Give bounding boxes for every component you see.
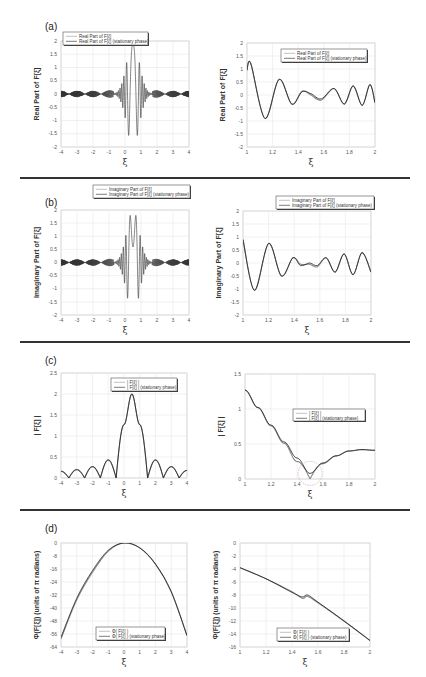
y-axis-label: Real Part of F[ξ] bbox=[219, 69, 227, 122]
y-tick-label: -2 bbox=[235, 312, 240, 318]
x-axis-label: ξ bbox=[303, 657, 308, 667]
x-tick-label: 1 bbox=[140, 149, 143, 155]
y-tick-label: 0 bbox=[54, 540, 57, 546]
y-tick-label: -14 bbox=[229, 631, 236, 637]
y-tick-label: -16 bbox=[50, 566, 57, 572]
figure-canvas: -4-3-2-10123421.510.50-0.5-1-1.5-2ξReal … bbox=[0, 0, 426, 677]
x-tick-label: 1.4 bbox=[294, 481, 301, 487]
x-tick-label: 2 bbox=[154, 480, 157, 486]
x-tick-label: 4 bbox=[186, 480, 189, 486]
y-tick-label: 0 bbox=[236, 260, 239, 266]
y-tick-label: 1 bbox=[238, 406, 241, 412]
y-tick-label: -1.5 bbox=[230, 299, 239, 305]
y-axis-label: | F[ξ] | bbox=[33, 416, 41, 436]
y-tick-label: -8 bbox=[53, 553, 58, 559]
x-tick-label: 1.2 bbox=[265, 317, 272, 323]
x-tick-label: -1 bbox=[106, 480, 111, 486]
x-tick-label: 1.8 bbox=[341, 649, 348, 655]
x-axis-label: ξ bbox=[305, 325, 310, 335]
x-tick-label: 1 bbox=[244, 481, 247, 487]
chart-b-right: 11.21.41.61.8221.510.50-0.5-1-1.5-2ξImag… bbox=[215, 196, 375, 335]
x-tick-label: 1.8 bbox=[346, 149, 353, 155]
x-tick-label: 1 bbox=[138, 649, 141, 655]
x-tick-label: 1 bbox=[138, 480, 141, 486]
legend: Imaginary Part of F[ξ]Imaginary Part of … bbox=[276, 196, 375, 210]
x-tick-label: 2 bbox=[374, 149, 377, 155]
x-tick-label: -3 bbox=[75, 149, 80, 155]
y-tick-label: 1 bbox=[54, 433, 57, 439]
y-tick-label: -2 bbox=[239, 144, 244, 150]
x-tick-label: 2 bbox=[156, 149, 159, 155]
x-tick-label: 1.6 bbox=[320, 149, 327, 155]
x-tick-label: 1 bbox=[246, 149, 249, 155]
x-tick-label: 1.6 bbox=[315, 649, 322, 655]
chart-d-left: -4-3-2-1012340-8-16-24-32-40-48-56-64ξΦ(… bbox=[33, 540, 189, 667]
y-tick-label: 0.5 bbox=[50, 454, 57, 460]
y-tick-label: -0.5 bbox=[48, 272, 57, 278]
x-axis-label: ξ bbox=[309, 157, 314, 167]
y-tick-label: 1.5 bbox=[234, 371, 241, 377]
y-tick-label: 1 bbox=[236, 234, 239, 240]
y-tick-label: 2 bbox=[54, 38, 57, 44]
y-tick-label: 2 bbox=[54, 207, 57, 213]
legend: | F[ξ] || F[ξ] | (stationary phase) bbox=[111, 378, 178, 392]
x-tick-label: 2 bbox=[370, 317, 373, 323]
x-tick-label: 1 bbox=[242, 317, 245, 323]
y-tick-label: 0 bbox=[54, 475, 57, 481]
y-tick-label: 0 bbox=[238, 476, 241, 482]
y-tick-label: -1.5 bbox=[234, 131, 243, 137]
y-tick-label: 0.5 bbox=[232, 247, 239, 253]
x-tick-label: 4 bbox=[188, 149, 191, 155]
y-tick-label: 0 bbox=[54, 91, 57, 97]
y-tick-label: 2.5 bbox=[50, 370, 57, 376]
legend: Real Part of F[ξ]Real Part of F[ξ] (stat… bbox=[63, 32, 149, 46]
x-tick-label: 2 bbox=[369, 649, 372, 655]
x-tick-label: -4 bbox=[59, 149, 64, 155]
y-tick-label: -32 bbox=[50, 592, 57, 598]
legend-entry: Real Part of F[ξ] (stationary phase) bbox=[79, 39, 149, 44]
y-axis-label: Imaginary Part of F[ξ] bbox=[33, 227, 41, 298]
y-tick-label: 1 bbox=[54, 64, 57, 70]
y-tick-label: -0.5 bbox=[48, 104, 57, 110]
x-tick-label: 1.6 bbox=[316, 317, 323, 323]
x-tick-label: -1 bbox=[107, 149, 112, 155]
x-tick-label: 1.2 bbox=[269, 149, 276, 155]
y-axis-label: Φ(F[ξ]) (units of π radians) bbox=[212, 551, 220, 640]
legend: Imaginary Part of F[ξ]Imaginary Part of … bbox=[93, 185, 191, 199]
y-tick-label: -8 bbox=[232, 592, 237, 598]
x-axis-label: ξ bbox=[308, 489, 313, 499]
x-tick-label: 4 bbox=[188, 317, 191, 323]
x-tick-label: 3 bbox=[170, 480, 173, 486]
y-tick-label: -12 bbox=[229, 618, 236, 624]
x-tick-label: -4 bbox=[59, 317, 64, 323]
x-tick-label: 3 bbox=[172, 149, 175, 155]
plot-area bbox=[245, 374, 375, 479]
legend-entry: Real Part of F[ξ] (stationary phase) bbox=[297, 56, 367, 61]
x-tick-label: 1.2 bbox=[268, 481, 275, 487]
x-tick-label: 3 bbox=[170, 649, 173, 655]
y-tick-label: -1.5 bbox=[48, 299, 57, 305]
y-tick-label: 2 bbox=[236, 208, 239, 214]
legend-entry: | F[ξ] | (stationary phase) bbox=[309, 416, 359, 421]
x-tick-label: 0 bbox=[124, 317, 127, 323]
y-axis-label: Real Part of F[ξ] bbox=[33, 68, 41, 121]
x-tick-label: -2 bbox=[90, 649, 95, 655]
x-tick-label: 2 bbox=[374, 481, 377, 487]
y-tick-label: -1.5 bbox=[48, 130, 57, 136]
y-tick-label: -1 bbox=[53, 285, 58, 291]
legend-entry: Imaginary Part of F[ξ] (stationary phase… bbox=[109, 192, 190, 197]
x-tick-label: 0 bbox=[124, 149, 127, 155]
y-tick-label: 1 bbox=[54, 233, 57, 239]
y-tick-label: -48 bbox=[50, 618, 57, 624]
chart-a-left: -4-3-2-10123421.510.50-0.5-1-1.5-2ξReal … bbox=[33, 32, 191, 167]
x-tick-label: 3 bbox=[172, 317, 175, 323]
x-tick-label: 1.8 bbox=[346, 481, 353, 487]
chart-a-right: 11.21.41.61.8221.510.50-0.5-1-1.5-2ξReal… bbox=[219, 40, 377, 167]
chart-c-left: -4-3-2-1012342.521.510.50ξ| F[ξ] || F[ξ]… bbox=[33, 370, 189, 498]
y-tick-label: -4 bbox=[232, 566, 237, 572]
y-axis-label: | F[ξ] | bbox=[217, 417, 225, 437]
x-axis-label: ξ bbox=[123, 157, 128, 167]
legend: | F[ξ] || F[ξ] | (stationary phase) bbox=[293, 409, 366, 422]
x-tick-label: -3 bbox=[75, 480, 80, 486]
y-tick-label: -0.5 bbox=[230, 273, 239, 279]
